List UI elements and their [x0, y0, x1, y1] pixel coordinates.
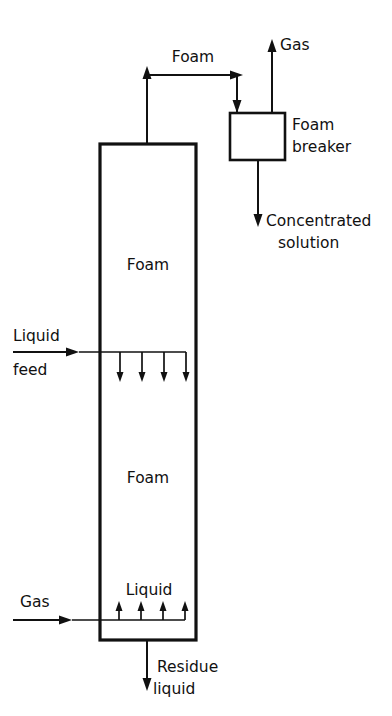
liquid-pool-label: Liquid — [126, 581, 173, 599]
foam-column — [100, 144, 196, 640]
residue-liquid-label-line2: liquid — [153, 680, 195, 698]
foam-zone-lower: Foam — [117, 466, 179, 487]
liquid-feed-arrowhead — [66, 348, 79, 357]
foam-stream-label: Foam — [172, 48, 214, 66]
gas-outlet-stream: Gas — [268, 36, 310, 113]
foam-downcomer-arrowhead — [233, 100, 242, 113]
gas-inlet-label: Gas — [20, 593, 50, 611]
gas-outlet-arrowhead — [268, 39, 277, 52]
foam-breaker-label-line1: Foam — [292, 116, 334, 134]
residue-liquid-stream: Residue liquid — [143, 640, 219, 698]
concentrated-solution-arrowhead — [254, 214, 263, 227]
foam-breaker: Foam breaker — [230, 113, 352, 160]
gas-inlet-arrowhead — [59, 616, 72, 625]
liquid-feed-label-line1: Liquid — [13, 327, 60, 345]
liquid-pool-zone: Liquid — [122, 580, 177, 599]
foam-lower-label: Foam — [127, 469, 169, 487]
residue-liquid-label-line1: Residue — [157, 658, 218, 676]
flowsheet-canvas: Foam Foam breaker Gas Concentrated solut… — [0, 0, 392, 716]
concentrated-solution-label-line2: solution — [278, 234, 339, 252]
foam-overhead-stream: Foam — [143, 48, 244, 144]
foam-breaker-label-line2: breaker — [292, 138, 352, 156]
concentrated-solution-label-line1: Concentrated — [266, 212, 371, 230]
process-flow-diagram: Foam Foam breaker Gas Concentrated solut… — [0, 0, 392, 716]
column-shell — [100, 144, 196, 640]
foam-riser-arrowhead — [143, 66, 152, 79]
foam-breaker-box — [230, 113, 285, 160]
liquid-feed-label-line2: feed — [13, 361, 47, 379]
residue-liquid-arrowhead — [143, 678, 152, 691]
concentrated-solution-stream: Concentrated solution — [254, 160, 372, 252]
foam-upper-label: Foam — [127, 256, 169, 274]
gas-outlet-label: Gas — [280, 36, 310, 54]
foam-zone-upper: Foam — [117, 253, 179, 274]
